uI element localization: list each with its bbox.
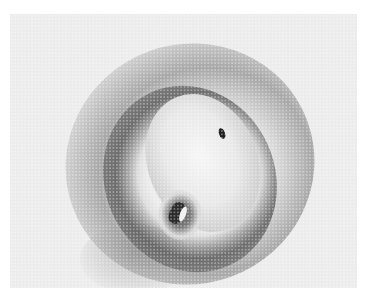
halftone-overlay [10,14,357,288]
lesion-photo [10,14,357,288]
